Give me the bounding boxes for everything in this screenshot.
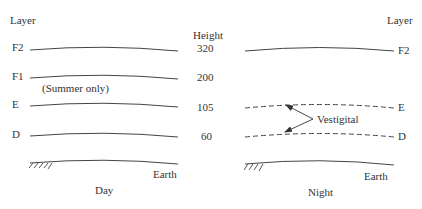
height-value-e: 105 [197, 101, 214, 113]
height-value-f1: 200 [197, 71, 214, 83]
night-ground-hatch-icon [244, 164, 263, 171]
day-layer-header: Layer [10, 14, 36, 26]
night-earth-surface [245, 161, 394, 165]
height-column: Height 320 200 105 60 [193, 29, 223, 142]
day-layer-curve-d [30, 133, 178, 137]
day-ground-hatch-icon [29, 163, 52, 169]
day-earth-label: Earth [153, 168, 177, 180]
day-layer-label-e: E [12, 98, 19, 110]
height-header: Height [193, 29, 223, 41]
day-layer-curve-f1 [30, 75, 178, 79]
night-layer-curve-d [245, 134, 394, 138]
day-layer-label-d: D [12, 128, 20, 140]
day-caption: Day [95, 184, 114, 196]
day-layer-curve-f2 [30, 47, 178, 51]
night-layer-label-d: D [398, 130, 406, 142]
night-earth-label: Earth [364, 170, 388, 182]
day-panel: Layer F2 F1 (Summer only) E D Earth Day [10, 14, 178, 196]
day-layer-label-f2: F2 [12, 41, 24, 53]
night-layer-curve-f2 [245, 48, 394, 52]
day-layer-curve-e [30, 103, 178, 107]
vestigital-arrows [285, 105, 313, 132]
day-layer-label-f1: F1 [12, 70, 24, 82]
height-value-d: 60 [201, 130, 213, 142]
arrow-to-d-icon [285, 119, 313, 132]
night-layer-label-e: E [398, 101, 405, 113]
arrow-to-e-icon [286, 105, 313, 119]
night-layer-header: Layer [387, 14, 413, 26]
night-layer-label-f2: F2 [398, 44, 410, 56]
height-value-f2: 320 [197, 42, 214, 54]
night-panel: Layer F2 E D Vestigital Earth Night [244, 14, 413, 198]
vestigital-annotation: Vestigital [317, 113, 359, 125]
night-layer-curve-e [245, 105, 394, 109]
day-f1-note: (Summer only) [42, 82, 109, 95]
ionosphere-diagram: Layer F2 F1 (Summer only) E D Earth Day … [0, 0, 422, 209]
night-caption: Night [308, 186, 333, 198]
